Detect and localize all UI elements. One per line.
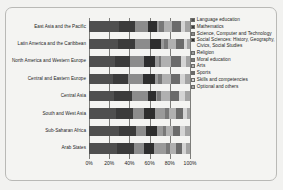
legend-item[interactable]: Arts bbox=[191, 63, 275, 69]
x-axis-tick-label: 0% bbox=[85, 160, 92, 166]
bar-segment[interactable] bbox=[89, 126, 119, 137]
bar-segment[interactable] bbox=[143, 74, 155, 85]
bar-segment[interactable] bbox=[116, 108, 133, 119]
legend-item[interactable]: Language education bbox=[191, 17, 275, 23]
y-axis-label: Central and Eastern Europe bbox=[2, 76, 86, 82]
bar-segment[interactable] bbox=[185, 74, 190, 85]
bar-row[interactable] bbox=[89, 56, 190, 67]
bar-segment[interactable] bbox=[164, 21, 172, 32]
bar-row[interactable] bbox=[89, 39, 190, 50]
bar-segment[interactable] bbox=[135, 21, 147, 32]
bar-segment[interactable] bbox=[171, 74, 180, 85]
bar-segment[interactable] bbox=[148, 91, 156, 102]
x-axis-tick-label: 100% bbox=[184, 160, 197, 166]
y-axis-label: Arab States bbox=[2, 145, 86, 151]
x-axis-tick-label: 80% bbox=[165, 160, 175, 166]
bar-segment[interactable] bbox=[155, 108, 165, 119]
bar-segment[interactable] bbox=[146, 126, 157, 137]
bar-segment[interactable] bbox=[134, 143, 143, 154]
bar-segment[interactable] bbox=[185, 126, 190, 137]
x-axis-tick-label: 20% bbox=[104, 160, 114, 166]
bar-segment[interactable] bbox=[186, 143, 190, 154]
bar-segment[interactable] bbox=[119, 126, 136, 137]
legend-item[interactable]: Optional and others bbox=[191, 84, 275, 90]
bar-segment[interactable] bbox=[148, 21, 157, 32]
legend-swatch-icon bbox=[191, 78, 195, 82]
bar-segment[interactable] bbox=[166, 126, 173, 137]
bar-segment[interactable] bbox=[168, 39, 176, 50]
legend-item[interactable]: Moral education bbox=[191, 57, 275, 63]
bar-segment[interactable] bbox=[118, 39, 135, 50]
bar-segment[interactable] bbox=[135, 39, 149, 50]
bar-segment[interactable] bbox=[114, 91, 132, 102]
legend-item[interactable]: Mathematics bbox=[191, 24, 275, 30]
bar-segment[interactable] bbox=[136, 126, 145, 137]
x-axis-tick bbox=[170, 157, 171, 159]
legend-item[interactable]: Skills and competencies bbox=[191, 77, 275, 83]
bar-segment[interactable] bbox=[187, 108, 190, 119]
legend-label: Skills and competencies bbox=[197, 77, 248, 83]
bar-segment[interactable] bbox=[161, 91, 170, 102]
legend-label: Religion bbox=[197, 50, 214, 56]
bar-segment[interactable] bbox=[176, 108, 183, 119]
bar-segment[interactable] bbox=[154, 143, 166, 154]
bar-row[interactable] bbox=[89, 108, 190, 119]
bar-row[interactable] bbox=[89, 74, 190, 85]
bar-row[interactable] bbox=[89, 126, 190, 137]
y-axis-label: Sub-Saharan Africa bbox=[2, 128, 86, 134]
bar-segment[interactable] bbox=[186, 56, 190, 67]
legend-swatch-icon bbox=[191, 38, 195, 42]
bar-segment[interactable] bbox=[128, 74, 142, 85]
legend-item[interactable]: Science, Computer and Technology bbox=[191, 31, 275, 37]
y-axis-label: North America and Western Europe bbox=[2, 58, 86, 64]
bar-row[interactable] bbox=[89, 143, 190, 154]
bar-segment[interactable] bbox=[113, 74, 128, 85]
bar-segment[interactable] bbox=[185, 21, 190, 32]
x-axis-tick bbox=[150, 157, 151, 159]
bar-segment[interactable] bbox=[161, 56, 171, 67]
legend-label: Optional and others bbox=[197, 84, 238, 90]
bar-row[interactable] bbox=[89, 21, 190, 32]
legend-item[interactable]: Social Sciences: History, Geography, Civ… bbox=[191, 37, 275, 48]
bar-segment[interactable] bbox=[89, 21, 119, 32]
plot-area bbox=[89, 18, 190, 157]
bar-segment[interactable] bbox=[176, 39, 184, 50]
legend-item[interactable]: Religion bbox=[191, 50, 275, 56]
bar-segment[interactable] bbox=[185, 91, 190, 102]
legend-swatch-icon bbox=[191, 71, 195, 75]
legend-swatch-icon bbox=[191, 58, 195, 62]
bar-segment[interactable] bbox=[89, 91, 114, 102]
bar-segment[interactable] bbox=[89, 39, 118, 50]
bar-segment[interactable] bbox=[144, 108, 155, 119]
bar-segment[interactable] bbox=[115, 56, 130, 67]
y-axis-label: South and West Asia bbox=[2, 111, 86, 117]
y-axis-label: East Asia and the Pacific bbox=[2, 24, 86, 30]
bar-segment[interactable] bbox=[172, 21, 181, 32]
bar-segment[interactable] bbox=[130, 56, 143, 67]
x-axis-tick bbox=[129, 157, 130, 159]
bar-segment[interactable] bbox=[173, 126, 180, 137]
bar-segment[interactable] bbox=[89, 56, 115, 67]
bar-segment[interactable] bbox=[133, 108, 143, 119]
bar-segment[interactable] bbox=[132, 91, 147, 102]
x-axis: 0%20%40%60%80%100% bbox=[89, 157, 190, 169]
legend-item[interactable]: Sports bbox=[191, 70, 275, 76]
bar-segment[interactable] bbox=[170, 91, 179, 102]
bar-segment[interactable] bbox=[171, 56, 181, 67]
bar-segment[interactable] bbox=[144, 56, 155, 67]
bar-segment[interactable] bbox=[144, 143, 154, 154]
bar-segment[interactable] bbox=[117, 143, 134, 154]
bar-row[interactable] bbox=[89, 91, 190, 102]
bar-segment[interactable] bbox=[89, 74, 113, 85]
legend-swatch-icon bbox=[191, 51, 195, 55]
bar-segment[interactable] bbox=[169, 108, 176, 119]
bar-segment[interactable] bbox=[119, 21, 135, 32]
legend-swatch-icon bbox=[191, 85, 195, 89]
bar-segment[interactable] bbox=[162, 74, 171, 85]
legend-swatch-icon bbox=[191, 25, 195, 29]
bar-segment[interactable] bbox=[89, 108, 116, 119]
bar-segment[interactable] bbox=[89, 143, 117, 154]
bar-segment[interactable] bbox=[150, 39, 161, 50]
legend-label: Mathematics bbox=[197, 24, 224, 30]
bar-segment[interactable] bbox=[187, 39, 190, 50]
